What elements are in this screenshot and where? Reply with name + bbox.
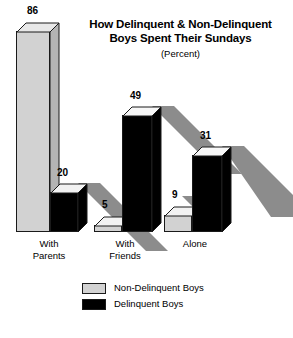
bar-3d <box>122 106 162 233</box>
legend-label-delinquent: Delinquent Boys <box>114 298 183 309</box>
bar-value-label-20: 20 <box>57 167 68 178</box>
bar-3d <box>50 183 88 233</box>
category-label-with-friends: With Friends <box>90 238 160 261</box>
bar-alone-non-delinquent <box>164 206 192 232</box>
shadow-band-3 <box>222 146 293 217</box>
chart-container: How Delinquent & Non-Delinquent Boys Spe… <box>0 0 293 338</box>
bar-alone-delinquent <box>192 146 222 232</box>
category-label-line1: Alone <box>183 238 207 249</box>
bar-3d <box>192 146 232 233</box>
bar-with-parents-non-delinquent <box>16 22 50 232</box>
category-label-with-parents: With Parents <box>14 238 84 261</box>
category-label-line2: Parents <box>33 250 66 261</box>
legend-swatch-non-delinquent-icon <box>82 283 106 294</box>
category-label-line1: With <box>116 238 135 249</box>
legend-label-non-delinquent: Non-Delinquent Boys <box>114 282 204 293</box>
bar-value-label-49: 49 <box>130 90 141 101</box>
category-label-alone: Alone <box>160 238 230 250</box>
bar-value-label-31: 31 <box>200 130 211 141</box>
category-label-line1: With <box>40 238 59 249</box>
bar-with-parents-delinquent <box>50 183 78 232</box>
bar-value-label-86: 86 <box>27 5 38 16</box>
bar-with-friends-non-delinquent <box>94 216 122 232</box>
bar-value-label-5: 5 <box>102 199 108 210</box>
legend-swatch-delinquent-icon <box>82 299 106 310</box>
bar-with-friends-delinquent <box>122 106 152 232</box>
bar-value-label-9: 9 <box>172 189 178 200</box>
category-label-line2: Friends <box>109 250 141 261</box>
